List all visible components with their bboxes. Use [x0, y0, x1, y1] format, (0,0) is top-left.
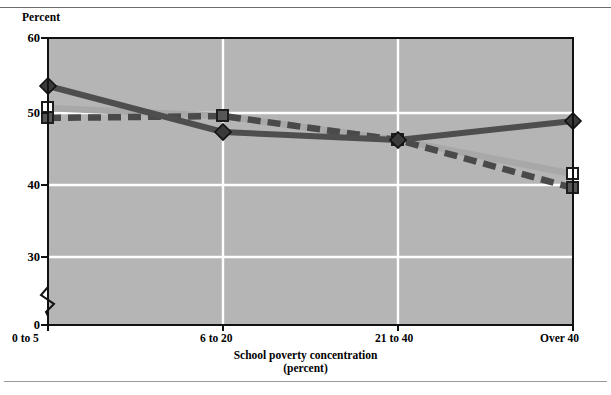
line-chart: Percent 60 50 40 30 0 0 to 5 6 to 20 21 … [0, 0, 611, 395]
bottom-divider-rule [4, 381, 607, 382]
plot-background [48, 38, 573, 325]
chart-plot-svg [0, 0, 611, 395]
